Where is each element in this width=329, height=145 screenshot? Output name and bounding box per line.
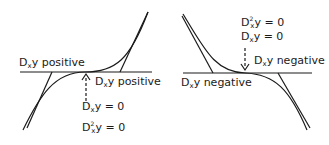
left-condition-first-derivative: Dxy = 0 bbox=[82, 101, 124, 116]
left-lower-tangent bbox=[27, 72, 52, 128]
right-condition-first-derivative: Dxy = 0 bbox=[241, 31, 283, 46]
left-condition-second-derivative: D2xy = 0 bbox=[82, 118, 125, 137]
right-label-dxy-negative-left: Dxy negative bbox=[181, 77, 252, 92]
left-upper-tangent bbox=[120, 12, 148, 72]
right-label-dxy-negative-right: Dxy negative bbox=[254, 55, 325, 70]
right-upper-tangent bbox=[182, 16, 213, 73]
left-label-dxy-positive-left: Dxy positive bbox=[19, 57, 85, 72]
left-label-dxy-positive-right: Dxy positive bbox=[95, 76, 161, 91]
inflection-diagram: Dxy positive Dxy positive Dxy = 0 D2xy =… bbox=[0, 0, 329, 145]
right-lower-tangent bbox=[278, 73, 310, 128]
